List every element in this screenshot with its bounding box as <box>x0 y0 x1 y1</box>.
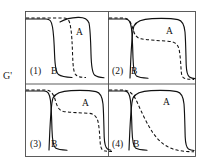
panel-3-curve-a <box>49 90 111 150</box>
panel-1-label-a: A <box>76 27 83 37</box>
panel-4-number: (4) <box>112 139 123 150</box>
panel-3: (3) B A <box>26 90 112 152</box>
panel-grid-svg: (1) B A (2) B A (3) B A <box>0 0 202 164</box>
panel-2-label-b: B <box>131 66 137 76</box>
panel-2: (2) B A <box>109 18 195 79</box>
panel-1-label-b: B <box>51 66 57 76</box>
panel-4-label-b: B <box>133 139 139 149</box>
panel-3-label-a: A <box>82 98 89 108</box>
panel-4: (4) B A <box>109 90 194 152</box>
panel-2-number: (2) <box>112 66 123 77</box>
panel-3-label-b: B <box>51 139 57 149</box>
panel-1: (1) B A <box>26 17 104 77</box>
panel-2-label-a: A <box>166 26 173 36</box>
panel-1-number: (1) <box>30 66 41 77</box>
figure-container: G' (1) B A (2) B A <box>0 0 202 164</box>
panel-2-curve-a <box>130 18 195 78</box>
panel-4-label-a: A <box>163 97 170 107</box>
panel-3-number: (3) <box>30 139 41 150</box>
y-axis-label: G' <box>3 70 12 81</box>
